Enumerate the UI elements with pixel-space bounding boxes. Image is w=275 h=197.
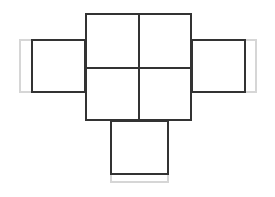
net-face-bottom [110, 120, 169, 175]
net-face-left [31, 39, 86, 93]
cube-net-figure [0, 0, 275, 197]
net-face-right [191, 39, 246, 93]
grid-divider-horizontal [85, 67, 192, 69]
